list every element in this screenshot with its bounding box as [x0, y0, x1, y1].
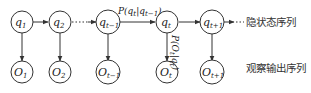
node-q1: q1	[11, 11, 33, 33]
node-q2: q2	[49, 11, 71, 33]
emission-prob-label: P(Ot|qt)	[168, 34, 180, 70]
observed-sequence-label: 观察输出序列	[246, 62, 306, 74]
node-O1: O1	[11, 61, 33, 83]
transition-prob-label: P(qt|qt−1)	[117, 6, 162, 18]
node-qt-1: qt−1	[96, 10, 120, 34]
node-Ot-1: Ot−1	[96, 60, 120, 84]
hidden-sequence-label: 隐状态序列	[246, 16, 296, 28]
hmm-diagram: q1 q2 qt−1 qt qt+1 O1 O2 Ot−1 Ot Ot+1 P(…	[0, 0, 311, 93]
node-Ot+1: Ot+1	[200, 60, 224, 84]
node-O2: O2	[49, 61, 71, 83]
node-qt+1: qt+1	[200, 10, 224, 34]
